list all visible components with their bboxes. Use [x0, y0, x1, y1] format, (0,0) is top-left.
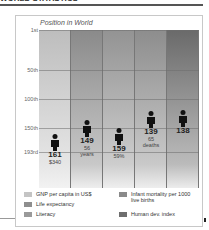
- legend-label: Infant mortality per 1000 live births: [131, 191, 193, 203]
- marker-life-expectancy: 149 56 years: [72, 120, 102, 157]
- person-icon: [114, 128, 124, 145]
- marker-gnp: 161 $340: [40, 134, 70, 165]
- chart-panel: Position in World 1st 50th 100th 150th 1…: [15, 15, 203, 227]
- plot-area: 161 $340 149 56 years 159 59% 139 65 dea…: [39, 30, 199, 188]
- gridline: [39, 70, 199, 71]
- value-label: $340: [40, 159, 70, 165]
- rank-value: 149: [72, 137, 102, 145]
- rank-value: 161: [40, 151, 70, 159]
- section-heading: WORLD STATISTICS: [0, 0, 203, 2]
- legend-swatch: [119, 212, 127, 217]
- person-icon: [146, 111, 156, 128]
- gridline: [39, 99, 199, 100]
- legend-swatch: [24, 202, 32, 207]
- y-tick-label: 100th: [16, 96, 38, 102]
- bottom-rule: [0, 218, 15, 219]
- value-label-unit: years: [72, 151, 102, 157]
- y-tick-label: 150th: [16, 125, 38, 131]
- marker-human-dev: 138: [168, 110, 198, 135]
- legend-swatch: [24, 212, 32, 217]
- legend-swatch: [24, 192, 32, 197]
- column-infant-mortality: [135, 30, 167, 188]
- heading-rule: [0, 4, 203, 6]
- column-human-dev: [167, 30, 199, 188]
- legend-label: Human dev. index: [131, 211, 191, 217]
- person-icon: [178, 110, 188, 127]
- corner-mark: [204, 218, 206, 222]
- marker-literacy: 159 59%: [104, 128, 134, 159]
- rank-value: 159: [104, 145, 134, 153]
- y-tick-label: 50th: [16, 67, 38, 73]
- person-icon: [82, 120, 92, 137]
- value-label-unit: deaths: [136, 142, 166, 148]
- chart-title: Position in World: [40, 19, 93, 26]
- y-tick-label: 193rd: [16, 149, 38, 155]
- legend-swatch: [119, 192, 127, 197]
- legend-label: Literacy: [36, 211, 96, 217]
- column-literacy: [103, 30, 135, 188]
- marker-infant-mortality: 139 65 deaths: [136, 111, 166, 148]
- value-label: 59%: [104, 153, 134, 159]
- y-tick-label: 1st: [16, 27, 38, 33]
- legend-label: GNP per capita in US$: [36, 191, 96, 197]
- rank-value: 139: [136, 128, 166, 136]
- gridline: [39, 30, 199, 31]
- person-icon: [50, 134, 60, 151]
- column-life-expectancy: [71, 30, 103, 188]
- rank-value: 138: [168, 127, 198, 135]
- legend-label: Life expectancy: [36, 201, 96, 207]
